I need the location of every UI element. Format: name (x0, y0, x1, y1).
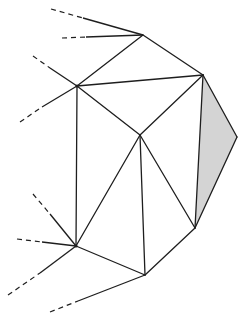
triangulation-diagram (0, 0, 244, 326)
dangling-edge-dashed-5 (17, 239, 42, 242)
dangling-edge-dashed-6 (8, 273, 40, 295)
dangling-edge-dashed-0 (51, 9, 83, 18)
dangling-edge-solid-5 (42, 242, 76, 246)
dangling-edge-dashed-1 (62, 37, 86, 38)
dangling-edge-solid-0 (83, 18, 143, 35)
dangling-edge-solid-6 (40, 246, 76, 273)
dangling-edge-dashed-4 (33, 194, 50, 214)
edge-GA (77, 35, 143, 86)
edge-GH (77, 86, 140, 135)
edge-DE (145, 228, 195, 275)
edge-EF (76, 246, 145, 275)
dangling-edge-dashed-2 (33, 56, 50, 68)
dangling-edge-dashed-3 (20, 107, 42, 122)
edge-HF (76, 135, 140, 246)
edge-HE (140, 135, 145, 275)
vertex-G (75, 84, 78, 87)
edge-AB (143, 35, 203, 75)
dangling-edge-solid-1 (86, 35, 143, 37)
dangling-edge-solid-7 (78, 275, 145, 301)
dangling-edge-solid-3 (42, 86, 77, 107)
dangling-edge-solid-2 (50, 68, 77, 86)
edge-FG (76, 86, 77, 246)
dangling-edge-dashed-7 (50, 301, 78, 312)
edge-BH (140, 75, 203, 135)
dangling-edge-solid-4 (50, 214, 76, 246)
edge-GB (77, 75, 203, 86)
vertex-F (74, 244, 77, 247)
edge-HD (140, 135, 195, 228)
